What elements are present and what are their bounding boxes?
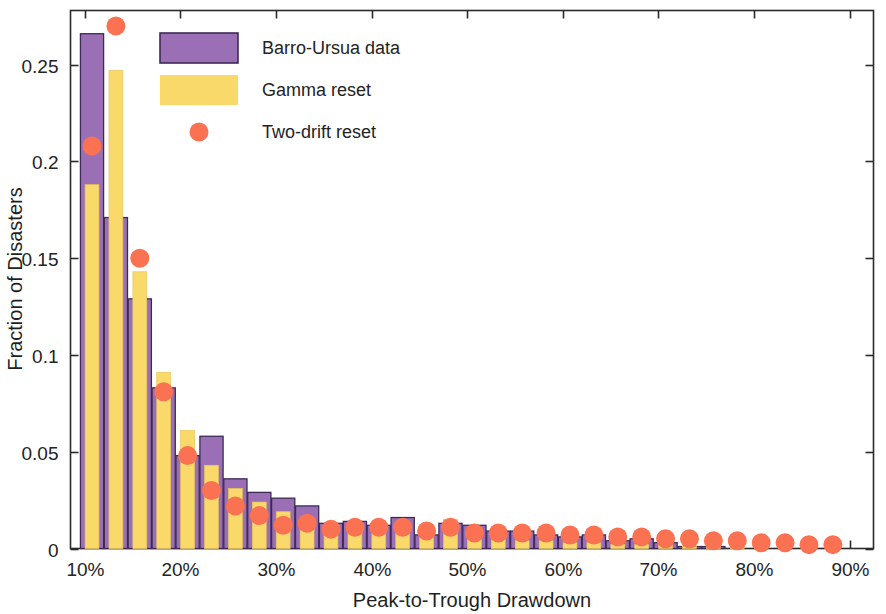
marker-two-drift-reset bbox=[704, 531, 723, 550]
y-axis-title: Fraction of Disasters bbox=[4, 187, 26, 370]
legend-marker-circle bbox=[190, 123, 209, 142]
x-tick-label: 10% bbox=[66, 559, 104, 580]
marker-two-drift-reset bbox=[441, 518, 460, 537]
marker-two-drift-reset bbox=[83, 136, 102, 155]
x-tick-label: 90% bbox=[831, 559, 869, 580]
marker-two-drift-reset bbox=[417, 522, 436, 541]
marker-two-drift-reset bbox=[465, 524, 484, 543]
marker-two-drift-reset bbox=[823, 535, 842, 554]
chart-figure: 10%20%30%40%50%60%70%80%90% 00.050.10.15… bbox=[0, 0, 886, 614]
y-tick-label: 0.2 bbox=[32, 152, 58, 173]
y-tick-label: 0.05 bbox=[22, 443, 59, 464]
marker-two-drift-reset bbox=[274, 516, 293, 535]
marker-two-drift-reset bbox=[656, 529, 675, 548]
marker-two-drift-reset bbox=[106, 16, 125, 35]
y-tick-label: 0.1 bbox=[32, 346, 58, 367]
legend-label: Gamma reset bbox=[262, 80, 371, 100]
marker-two-drift-reset bbox=[154, 382, 173, 401]
x-tick-label: 70% bbox=[639, 559, 677, 580]
marker-two-drift-reset bbox=[250, 506, 269, 525]
x-tick-label: 40% bbox=[353, 559, 391, 580]
marker-two-drift-reset bbox=[752, 533, 771, 552]
x-tick-label: 80% bbox=[735, 559, 773, 580]
marker-two-drift-reset bbox=[322, 520, 341, 539]
x-tick-label: 50% bbox=[448, 559, 486, 580]
marker-two-drift-reset bbox=[632, 527, 651, 546]
legend-swatch bbox=[160, 75, 238, 105]
x-tick-label: 60% bbox=[544, 559, 582, 580]
bar-gamma-reset bbox=[85, 185, 99, 549]
marker-two-drift-reset bbox=[369, 518, 388, 537]
marker-two-drift-reset bbox=[298, 514, 317, 533]
y-tick-label: 0.25 bbox=[22, 56, 59, 77]
marker-two-drift-reset bbox=[202, 481, 221, 500]
marker-two-drift-reset bbox=[345, 518, 364, 537]
x-tick-label: 30% bbox=[257, 559, 295, 580]
marker-two-drift-reset bbox=[680, 529, 699, 548]
marker-two-drift-reset bbox=[513, 524, 532, 543]
bar-gamma-reset bbox=[109, 70, 123, 548]
legend-swatch bbox=[160, 33, 238, 63]
marker-two-drift-reset bbox=[584, 525, 603, 544]
legend-label: Barro-Ursua data bbox=[262, 38, 401, 58]
bar-gamma-reset bbox=[205, 465, 219, 548]
marker-two-drift-reset bbox=[776, 533, 795, 552]
y-tick-label: 0 bbox=[48, 540, 59, 561]
marker-two-drift-reset bbox=[489, 524, 508, 543]
x-axis-title: Peak-to-Trough Drawdown bbox=[353, 589, 591, 611]
chart-legend: Barro-Ursua dataGamma resetTwo-drift res… bbox=[160, 33, 401, 142]
marker-two-drift-reset bbox=[799, 535, 818, 554]
x-axis-tick-labels: 10%20%30%40%50%60%70%80%90% bbox=[66, 559, 869, 580]
marker-two-drift-reset bbox=[226, 496, 245, 515]
marker-two-drift-reset bbox=[130, 249, 149, 268]
marker-two-drift-reset bbox=[728, 531, 747, 550]
x-tick-label: 20% bbox=[161, 559, 199, 580]
bar-gamma-reset bbox=[133, 272, 147, 549]
legend-label: Two-drift reset bbox=[262, 122, 376, 142]
y-tick-label: 0.15 bbox=[22, 249, 59, 270]
marker-two-drift-reset bbox=[560, 525, 579, 544]
marker-two-drift-reset bbox=[393, 518, 412, 537]
drawdown-distribution-chart: 10%20%30%40%50%60%70%80%90% 00.050.10.15… bbox=[0, 0, 886, 614]
marker-two-drift-reset bbox=[608, 527, 627, 546]
marker-two-drift-reset bbox=[178, 446, 197, 465]
marker-two-drift-reset bbox=[537, 524, 556, 543]
